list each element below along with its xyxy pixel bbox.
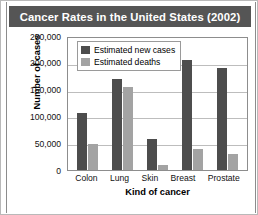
x-tick-label: Prostate — [208, 173, 240, 183]
chart-figure: Cancer Rates in the United States (2002)… — [0, 0, 258, 215]
bar-deaths — [228, 154, 238, 170]
legend-item-deaths: Estimated deaths — [81, 56, 175, 68]
x-tick-label: Colon — [75, 173, 97, 183]
bar-new-cases — [77, 113, 87, 170]
y-axis-ticks: 250,000200,000150,000100,00050,0000 — [13, 29, 61, 209]
y-tick-label: 250,000 — [17, 33, 61, 42]
legend-swatch-new-cases — [81, 46, 90, 54]
x-tick-label: Skin — [141, 173, 158, 183]
bar-deaths — [193, 149, 203, 170]
bar-group — [217, 38, 238, 170]
bar-new-cases — [147, 139, 157, 170]
bar-deaths — [158, 165, 168, 170]
x-tick-label: Breast — [171, 173, 196, 183]
bar-new-cases — [217, 68, 227, 170]
bar-deaths — [123, 87, 133, 170]
plot-area: Estimated new cases Estimated deaths — [67, 37, 248, 171]
bar-group — [182, 38, 203, 170]
bar-deaths — [88, 144, 98, 170]
chart-legend: Estimated new cases Estimated deaths — [77, 41, 181, 71]
page-title: Cancer Rates in the United States (2002) — [20, 11, 241, 23]
x-tick-label: Lung — [110, 173, 129, 183]
y-tick-label: 50,000 — [17, 140, 61, 149]
y-tick-label: 150,000 — [17, 86, 61, 95]
bar-new-cases — [112, 79, 122, 170]
legend-swatch-deaths — [81, 58, 90, 66]
bar-new-cases — [182, 60, 192, 170]
chart-title-bar: Cancer Rates in the United States (2002) — [9, 6, 251, 27]
y-tick-label: 100,000 — [17, 113, 61, 122]
x-axis-ticks: ColonLungSkinBreastProstate — [67, 173, 248, 183]
y-tick-label: 200,000 — [17, 59, 61, 68]
y-tick-label: 0 — [17, 167, 61, 176]
chart-area: Number of cases 250,000200,000150,000100… — [9, 29, 251, 209]
legend-label-new-cases: Estimated new cases — [94, 45, 175, 55]
x-axis-label: Kind of cancer — [67, 187, 248, 197]
legend-label-deaths: Estimated deaths — [94, 57, 160, 67]
legend-item-new-cases: Estimated new cases — [81, 44, 175, 56]
